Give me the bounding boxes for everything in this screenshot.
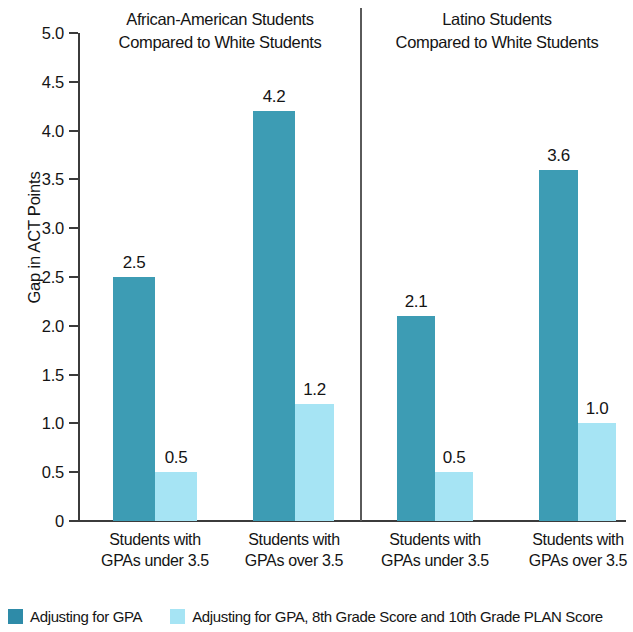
y-axis-tick: 1.0 [0, 414, 78, 432]
y-axis-tick: 0.5 [0, 463, 78, 481]
bar [397, 316, 435, 521]
y-axis-tick-label: 0 [4, 512, 64, 530]
y-axis-tick: 3.5 [0, 170, 78, 188]
x-axis-category-line-2: GPAs over 3.5 [508, 550, 633, 571]
y-axis-tick: 4.0 [0, 122, 78, 140]
y-axis-tick-label: 3.5 [4, 170, 64, 188]
x-axis-category-label: Students withGPAs over 3.5 [224, 529, 364, 571]
x-axis-category-line-2: GPAs over 3.5 [224, 550, 364, 571]
x-axis-category-line-1: Students with [224, 529, 364, 550]
bar [295, 404, 334, 521]
y-axis-tick-label: 2.0 [4, 317, 64, 335]
x-axis-category-line-1: Students with [508, 529, 633, 550]
y-axis-tick-label: 5.0 [4, 24, 64, 42]
bar [155, 472, 197, 521]
y-axis-tick-mark [69, 81, 78, 83]
y-axis-tick-label: 0.5 [4, 463, 64, 481]
y-axis-tick: 2.0 [0, 317, 78, 335]
bar-value-label: 3.6 [527, 146, 590, 166]
y-axis-tick-mark [69, 130, 78, 132]
bar [578, 423, 616, 521]
bar-value-label: 2.1 [385, 292, 447, 312]
y-axis-tick-label: 4.0 [4, 122, 64, 140]
y-axis-tick-mark [69, 422, 78, 424]
x-axis-category-label: Students withGPAs over 3.5 [508, 529, 633, 571]
x-axis-category-line-1: Students with [85, 529, 225, 550]
y-axis-tick-label: 3.0 [4, 219, 64, 237]
x-axis-category-label: Students withGPAs under 3.5 [365, 529, 505, 571]
y-axis-tick-mark [69, 178, 78, 180]
y-axis-tick: 2.5 [0, 268, 78, 286]
legend-swatch-icon [170, 609, 185, 624]
y-axis-tick-mark [69, 471, 78, 473]
y-axis-tick-mark [69, 325, 78, 327]
bar [435, 472, 473, 521]
x-axis-category-line-1: Students with [365, 529, 505, 550]
legend-item-label: Adjusting for GPA, 8th Grade Score and 1… [192, 608, 603, 625]
y-axis-tick-mark [69, 227, 78, 229]
y-axis-tick: 5.0 [0, 24, 78, 42]
bar-value-label: 2.5 [101, 253, 167, 273]
y-axis-tick-label: 2.5 [4, 268, 64, 286]
y-axis-tick-label: 4.5 [4, 73, 64, 91]
y-axis-tick-mark [69, 32, 78, 34]
y-axis-tick-mark [69, 520, 78, 522]
bar-value-label: 1.2 [283, 380, 346, 400]
bar [539, 170, 578, 521]
legend-item-adjusting-for-gpa-and-scores[interactable]: Adjusting for GPA, 8th Grade Score and 1… [170, 608, 603, 625]
y-axis-tick: 1.5 [0, 366, 78, 384]
bar-value-label: 4.2 [241, 87, 307, 107]
y-axis-tick: 0 [0, 512, 78, 530]
x-axis-category-line-2: GPAs under 3.5 [85, 550, 225, 571]
y-axis-tick-mark [69, 374, 78, 376]
y-axis-tick-label: 1.5 [4, 366, 64, 384]
panel-title-line-1: Latino Students [364, 8, 630, 31]
y-axis-tick: 3.0 [0, 219, 78, 237]
plot-area: 2.50.54.21.22.10.53.61.0 [78, 33, 626, 521]
bar-chart: Gap in ACT Points 5.04.54.03.53.02.52.01… [0, 0, 633, 632]
bar-value-label: 0.5 [143, 448, 209, 468]
legend: Adjusting for GPA Adjusting for GPA, 8th… [8, 606, 603, 626]
y-axis-tick-mark [69, 276, 78, 278]
y-axis-tick-label: 1.0 [4, 414, 64, 432]
y-axis-tick: 4.5 [0, 73, 78, 91]
bar [113, 277, 155, 521]
panel-title-line-1: African-American Students [82, 8, 358, 31]
legend-swatch-icon [8, 609, 23, 624]
x-axis-category-line-2: GPAs under 3.5 [365, 550, 505, 571]
legend-item-label: Adjusting for GPA [30, 608, 142, 625]
bar-value-label: 0.5 [423, 448, 485, 468]
bar [253, 111, 295, 521]
bar-value-label: 1.0 [566, 399, 628, 419]
legend-item-adjusting-for-gpa[interactable]: Adjusting for GPA [8, 608, 142, 625]
x-axis-category-label: Students withGPAs under 3.5 [85, 529, 225, 571]
